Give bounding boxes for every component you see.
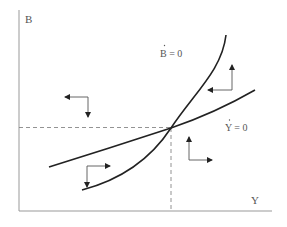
direction-arrow-lower-right [189, 137, 212, 160]
b-dot-zero-curve [82, 35, 226, 190]
x-axis-label: Y [251, 194, 259, 206]
direction-arrow-lower-left [87, 166, 110, 187]
b-dot-zero-label: B = 0 [160, 45, 182, 59]
svg-text:B = 0: B = 0 [160, 48, 182, 59]
svg-text:Y = 0: Y = 0 [225, 122, 248, 133]
direction-arrow-upper-right [208, 65, 232, 90]
y-axis-label: B [25, 13, 32, 25]
phase-diagram: B Y B = 0 Y = 0 [0, 0, 287, 227]
direction-arrow-upper-left [65, 97, 88, 117]
y-dot-zero-label: Y = 0 [225, 119, 248, 133]
